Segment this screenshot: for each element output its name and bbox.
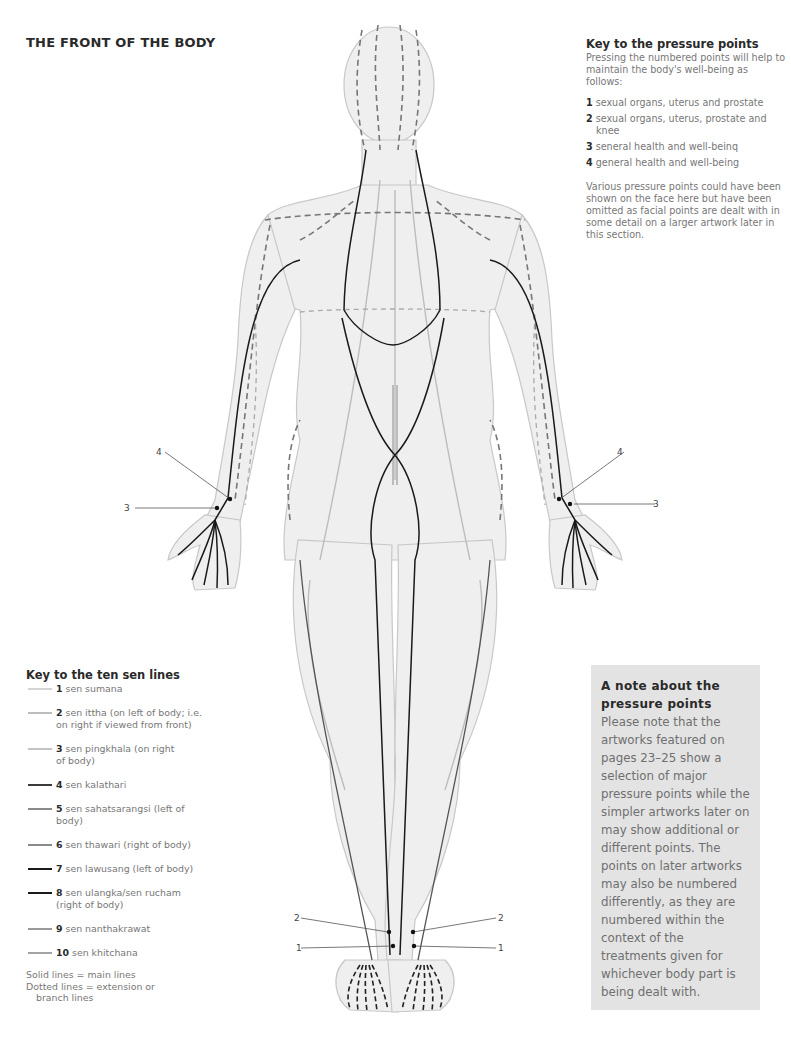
pressure-point-item: 3seneral health and well-beinq (586, 141, 786, 153)
line-swatch-icon (28, 748, 52, 750)
sen-line-item: 1sen sumana (26, 683, 226, 695)
line-swatch-icon (28, 844, 52, 846)
line-swatch-icon (28, 892, 52, 894)
callout-label-right-ankle-1: 1 (498, 943, 504, 953)
facial-points-note: Various pressure points could have been … (586, 181, 786, 241)
pressure-point-item: 2sexual organs, uterus, prostate and kne… (586, 113, 786, 137)
callout-label-left-wrist-3: 3 (124, 503, 130, 513)
line-swatch-icon (28, 952, 52, 954)
sen-line-item: 8sen ulangka/sen rucham (right of body) (26, 887, 206, 911)
line-swatch-icon (28, 868, 52, 870)
pressure-points-intro: Pressing the numbered points will help t… (586, 52, 786, 88)
sen-line-item: 2sen ittha (on left of body; i.e. on rig… (26, 707, 206, 731)
callout-label-left-ankle-1: 1 (296, 943, 302, 953)
line-swatch-icon (28, 808, 52, 810)
callout-label-left-wrist-4: 4 (156, 447, 162, 457)
pressure-points-key: Key to the pressure points Pressing the … (586, 37, 786, 241)
sen-line-item: 4sen kalathari (26, 779, 226, 791)
line-swatch-icon (28, 688, 52, 690)
line-style-footnote: Solid lines = main lines Dotted lines = … (26, 969, 226, 1004)
callout-label-right-wrist-3: 3 (653, 499, 659, 509)
sen-lines-heading: Key to the ten sen lines (26, 668, 226, 682)
pressure-points-heading: Key to the pressure points (586, 37, 786, 51)
line-swatch-icon (28, 928, 52, 930)
pressure-point-item: 4general health and well-being (586, 157, 786, 169)
sen-line-item: 10sen khitchana (26, 947, 226, 959)
note-heading: A note about the pressure points (601, 677, 750, 713)
sen-line-item: 7sen lawusang (left of body) (26, 863, 226, 875)
sen-lines-key: Key to the ten sen lines 1sen sumana 2se… (26, 668, 226, 1004)
sen-line-item: 6sen thawari (right of body) (26, 839, 226, 851)
sen-line-item: 5sen sahatsarangsi (left of body) (26, 803, 186, 827)
note-about-pressure-points: A note about the pressure points Please … (591, 665, 760, 1010)
sen-line-item: 9sen nanthakrawat (26, 923, 226, 935)
sen-line-item: 3sen pingkhala (on right of body) (26, 743, 176, 767)
note-body: Please note that the artworks featured o… (601, 713, 750, 1001)
callout-label-left-ankle-2: 2 (294, 913, 300, 923)
line-swatch-icon (28, 712, 52, 714)
line-swatch-icon (28, 784, 52, 786)
callout-label-right-ankle-2: 2 (498, 913, 504, 923)
callout-label-right-wrist-4: 4 (617, 447, 623, 457)
pressure-point-item: 1sexual organs, uterus and prostate (586, 97, 786, 109)
